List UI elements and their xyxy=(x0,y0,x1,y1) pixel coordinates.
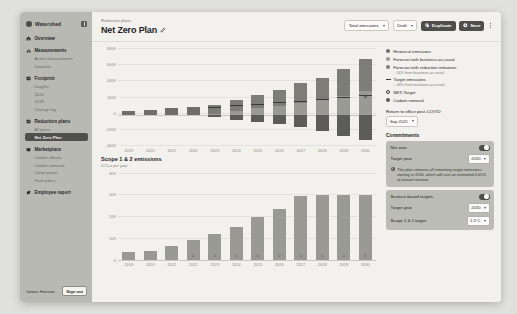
chart-bar[interactable] xyxy=(208,115,221,117)
return-office-select[interactable]: Sep 2021 xyxy=(386,116,418,127)
chart-bar[interactable] xyxy=(294,83,307,103)
sidebar-item-reduction-plans[interactable]: Reduction plans xyxy=(20,118,92,126)
y-axis-tick: 10K xyxy=(109,235,116,240)
chart-bar[interactable] xyxy=(337,96,350,115)
chart-bar[interactable] xyxy=(251,108,264,115)
bar-value-label: 0 xyxy=(300,254,302,258)
chart-bar[interactable] xyxy=(316,195,329,260)
sidebar-label: Employee report xyxy=(35,190,71,195)
x-axis-tick: 2023 xyxy=(210,262,219,267)
chart-bar[interactable] xyxy=(294,103,307,115)
sidebar-item-all-plans[interactable]: All plans xyxy=(20,126,92,134)
duplicate-button[interactable]: Duplicate xyxy=(421,21,456,31)
chart-bar[interactable] xyxy=(122,252,135,260)
status-select[interactable]: Draft xyxy=(393,20,418,31)
sidebar-label: Footprint xyxy=(35,76,55,81)
sbt-scope-select[interactable]: 1.5°C xyxy=(467,216,490,226)
kebab-menu-icon[interactable] xyxy=(488,22,493,29)
sidebar-item-carbon-offsets[interactable]: Carbon offsets xyxy=(20,154,92,162)
chart-bar[interactable] xyxy=(359,195,372,260)
chart-bar[interactable] xyxy=(294,115,307,127)
sidebar-item-2020[interactable]: 2020 xyxy=(20,90,92,98)
chart-bar[interactable] xyxy=(294,196,307,260)
chart-bar[interactable] xyxy=(273,115,286,124)
sidebar-item-net-zero-plan[interactable]: Net Zero Plan xyxy=(25,133,88,141)
save-button[interactable]: Save xyxy=(459,21,484,31)
sidebar-group-footprint: Footprint Insights 2020 2019 Change log xyxy=(20,75,92,114)
sidebar-label: Reduction plans xyxy=(35,119,71,124)
target-line-marker xyxy=(251,104,264,105)
x-axis-tick: 2021 xyxy=(167,148,176,153)
x-axis-tick: 2029 xyxy=(339,148,348,153)
x-axis-tick: 2022 xyxy=(189,148,198,153)
breadcrumb[interactable]: Reduction plans xyxy=(101,18,166,23)
net-zero-target-year-select[interactable]: 2030 xyxy=(468,154,490,164)
legend-dot-icon xyxy=(386,57,390,61)
legend-item[interactable]: Target emissions↓ 46% from business-as-u… xyxy=(386,77,494,87)
chart-bar[interactable] xyxy=(165,246,178,260)
total-emissions-plot[interactable]: 800K600K400K200K0-200K-400K2019202020212… xyxy=(101,46,378,154)
legend-item[interactable]: Forecast with reduction initiatives↓ 14%… xyxy=(386,65,494,75)
sidebar-item-datasets[interactable]: Datasets xyxy=(20,62,92,70)
target-line-marker xyxy=(316,99,329,100)
chart-bar[interactable] xyxy=(251,95,264,109)
collapse-sidebar-icon[interactable] xyxy=(81,21,87,27)
sidebar-item-clean-power[interactable]: Clean power xyxy=(20,169,92,177)
content-area: 800K600K400K200K0-200K-400K2019202020212… xyxy=(92,42,501,302)
chart-bar[interactable] xyxy=(337,195,350,260)
science-based-targets-card: Science-based targets Target year 2030 S… xyxy=(386,190,494,230)
sidebar-group-reduction-plans: Reduction plans All plans Net Zero Plan xyxy=(20,118,92,141)
sidebar-item-carbon-removal[interactable]: Carbon removal xyxy=(20,161,92,169)
x-axis-tick: 2024 xyxy=(232,262,241,267)
chart-bar[interactable] xyxy=(251,115,264,122)
x-axis-tick: 2022 xyxy=(189,262,198,267)
legend-item[interactable]: Historical emissions xyxy=(386,49,494,54)
chart-bar[interactable] xyxy=(273,106,286,115)
sidebar-item-footprint[interactable]: Footprint xyxy=(20,75,92,83)
chart-bar[interactable] xyxy=(273,209,286,259)
net-zero-toggle[interactable] xyxy=(479,145,490,151)
sidebar-item-change-log[interactable]: Change log xyxy=(20,106,92,114)
y-axis-tick: 800K xyxy=(107,46,116,51)
chevron-down-icon xyxy=(484,207,486,209)
chart-bar[interactable] xyxy=(316,115,329,131)
legend-item[interactable]: Forecast with business-as-usual xyxy=(386,57,494,62)
legend-item[interactable]: SBTi Target xyxy=(386,90,494,95)
chart-bar[interactable] xyxy=(337,69,350,96)
scope-select[interactable]: Total emissions xyxy=(344,20,389,31)
y-axis-tick: -400K xyxy=(106,143,116,148)
chart-bar[interactable] xyxy=(337,115,350,136)
sign-out-button[interactable]: Sign out xyxy=(62,286,87,296)
sidebar-item-overview[interactable]: Overview xyxy=(20,34,92,42)
chart-bar[interactable] xyxy=(316,78,329,100)
marketplace-icon xyxy=(26,147,31,152)
chart-bar[interactable] xyxy=(144,110,157,115)
chart-bar[interactable] xyxy=(230,115,243,119)
chart-bar[interactable] xyxy=(359,115,372,140)
sbt-toggle[interactable] xyxy=(479,194,490,200)
chart-bar[interactable] xyxy=(144,251,157,260)
chart-bar[interactable] xyxy=(122,111,135,115)
scope12-plot[interactable]: 40K30K20K10K0201920202021202220232024202… xyxy=(101,171,378,269)
legend-label: Forecast with business-as-usual xyxy=(393,57,454,62)
chart-bar[interactable] xyxy=(165,108,178,115)
sbt-target-year-select[interactable]: 2030 xyxy=(468,203,490,213)
net-zero-target-year-row: Target year 2030 xyxy=(391,154,490,164)
duplicate-label: Duplicate xyxy=(432,23,452,28)
net-zero-label: Net zero xyxy=(391,145,407,150)
sidebar-item-employee-report[interactable]: Employee report xyxy=(20,189,92,197)
chart-bar[interactable] xyxy=(316,100,329,115)
pencil-icon[interactable] xyxy=(160,27,166,33)
sidebar-item-active-measurement[interactable]: Active measurement xyxy=(20,55,92,63)
chart-bar[interactable] xyxy=(273,90,286,106)
chart-bar[interactable] xyxy=(359,59,372,91)
save-icon xyxy=(463,23,468,28)
sidebar-item-marketplace[interactable]: Marketplace xyxy=(20,146,92,154)
sidebar-item-insights[interactable]: Insights xyxy=(20,83,92,91)
legend-item[interactable]: Carbon removal xyxy=(386,98,494,103)
sbt-target-year-row: Target year 2030 xyxy=(391,203,490,213)
sidebar-item-fuel-orders[interactable]: Fuel orders xyxy=(20,176,92,184)
sidebar-item-2019[interactable]: 2019 xyxy=(20,98,92,106)
chart-bar[interactable] xyxy=(187,107,200,115)
sidebar-item-measurements[interactable]: Measurements xyxy=(20,47,92,55)
